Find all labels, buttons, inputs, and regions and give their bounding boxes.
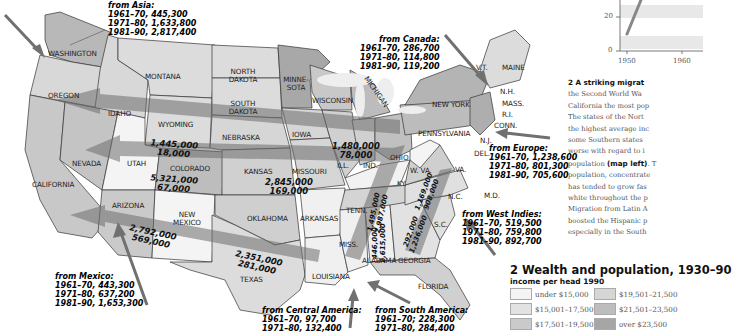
state-label-connecticut: CONN.: [494, 122, 517, 130]
state-label-new-hampshire: N.H.: [500, 88, 515, 96]
state-label-florida: FLORIDA: [418, 283, 448, 291]
immigration-canada: from Canada: 1961–70, 286,700 1971–80, 1…: [360, 35, 440, 71]
caption-heading: 2 A striking migrat: [568, 78, 644, 87]
state-label-california: CALIFORNIA: [32, 181, 74, 189]
legend-item: over $23,500: [594, 318, 694, 330]
state-mid-atlantic: [470, 92, 495, 135]
flow-alabama: 446,0002,615,000: [371, 223, 387, 262]
state-label-south-carolina: S.C.: [434, 221, 448, 229]
state-label-ohio: OHIO: [390, 154, 408, 162]
state-label-delaware: DEL.: [474, 150, 490, 158]
state-label-texas: TEXAS: [240, 276, 263, 284]
state-label-north-carolina: N.C.: [448, 193, 463, 201]
flow-kansas: 2,845,000169,000: [265, 178, 313, 196]
flow-central: 5,321,00067,000: [149, 173, 198, 194]
state-label-virginia: VA.: [455, 166, 466, 174]
state-label-colorado: COLORADO: [170, 165, 210, 173]
state-label-massachusetts: MASS.: [502, 100, 524, 108]
legend-item: under $15,000: [510, 288, 594, 300]
state-label-washington: WASHINGTON: [48, 50, 97, 58]
immigration-europe: from Europe: 1961–70, 1,238,600 1971–80,…: [489, 144, 577, 180]
state-label-nevada: NEVADA: [72, 160, 101, 168]
state-label-illinois: ILL.: [337, 162, 349, 170]
state-label-oregon: OREGON: [48, 92, 79, 100]
state-label-louisiana: LOUISIANA: [312, 273, 350, 281]
state-label-north-dakota: NORTH DAKOTA: [226, 68, 260, 84]
y-tick-20: 20: [604, 12, 613, 20]
state-label-oklahoma: OKLAHOMA: [247, 215, 288, 223]
state-label-new-york: NEW YORK: [432, 101, 470, 109]
state-label-missouri: MISSOURI: [292, 168, 327, 176]
flow-north: 1,445,00018,000: [149, 138, 198, 159]
state-label-wisconsin: WISCONSIN: [312, 97, 353, 105]
legend-swatch: [594, 303, 616, 315]
state-label-vermont: V.T.: [476, 64, 488, 72]
x-tick-1960: 1960: [673, 57, 691, 65]
legend-item: $21,501–23,500: [594, 303, 694, 315]
state-label-nebraska: NEBRASKA: [222, 134, 260, 142]
legend-title: 2 Wealth and population, 1930–90: [510, 264, 703, 277]
legend-swatch: [510, 303, 532, 315]
legend-subtitle: income per head 1990: [510, 277, 703, 286]
flow-great-lakes: 1,480,00078,000: [332, 142, 380, 160]
population-chart: 20 0 1950 1960: [600, 0, 703, 70]
state-new-england: [480, 30, 530, 88]
immigration-central-america: from Central America: 1961–70, 97,700 19…: [262, 306, 362, 333]
immigration-south-america: from South America: 1961–70; 228,300 197…: [375, 306, 468, 333]
state-label-kansas: KANSAS: [244, 168, 272, 176]
state-label-idaho: IDAHO: [108, 110, 131, 118]
state-label-utah: UTAH: [127, 160, 146, 168]
legend-swatch: [594, 288, 616, 300]
immigration-asia: from Asia: 1961–70, 445,300 1971–80, 1,6…: [108, 1, 196, 37]
state-label-tennessee: TENN.: [346, 207, 367, 215]
legend-item: $15,001–17,500: [510, 303, 594, 315]
legend-swatch: [510, 288, 532, 300]
legend-item: $19,501–21,500: [594, 288, 694, 300]
state-label-indiana: IND.: [363, 162, 378, 170]
state-label-maryland: M.D.: [484, 192, 500, 200]
state-label-new-mexico: NEW MEXICO: [170, 211, 204, 227]
map-legend: 2 Wealth and population, 1930–90 income …: [510, 264, 703, 330]
legend-item: $17,501–19,500: [510, 318, 594, 330]
state-label-arkansas: ARKANSAS: [300, 215, 338, 223]
state-label-montana: MONTANA: [145, 73, 181, 81]
state-label-mississippi: MISS.: [339, 241, 358, 249]
state-label-wyoming: WYOMING: [158, 121, 193, 129]
state-label-iowa: IOWA: [292, 131, 311, 139]
state-label-minnesota: MINNE-SOTA: [281, 76, 311, 92]
immigration-west-indies: from West Indies: 1961–70, 519,500 1971–…: [462, 210, 542, 246]
legend-swatch: [594, 318, 616, 330]
state-label-rhode-island: R.I.: [502, 111, 513, 119]
state-label-georgia: GEORGIA: [398, 257, 431, 265]
state-label-maine: MAINE: [502, 64, 525, 72]
legend-swatch: [510, 318, 532, 330]
x-tick-1950: 1950: [618, 57, 636, 65]
caption-text: 2 A striking migrat the Second World Wa …: [568, 77, 703, 239]
state-label-arizona: ARIZONA: [112, 202, 144, 210]
immigration-mexico: from Mexico: 1961–70, 443,300 1971–80, 6…: [55, 272, 143, 308]
state-label-south-dakota: SOUTH DAKOTA: [226, 100, 260, 116]
state-label-pennsylvania: PENNSYLVANIA: [418, 130, 470, 138]
y-tick-0: 0: [608, 46, 612, 54]
state-label-kentucky: KY.: [397, 180, 406, 188]
